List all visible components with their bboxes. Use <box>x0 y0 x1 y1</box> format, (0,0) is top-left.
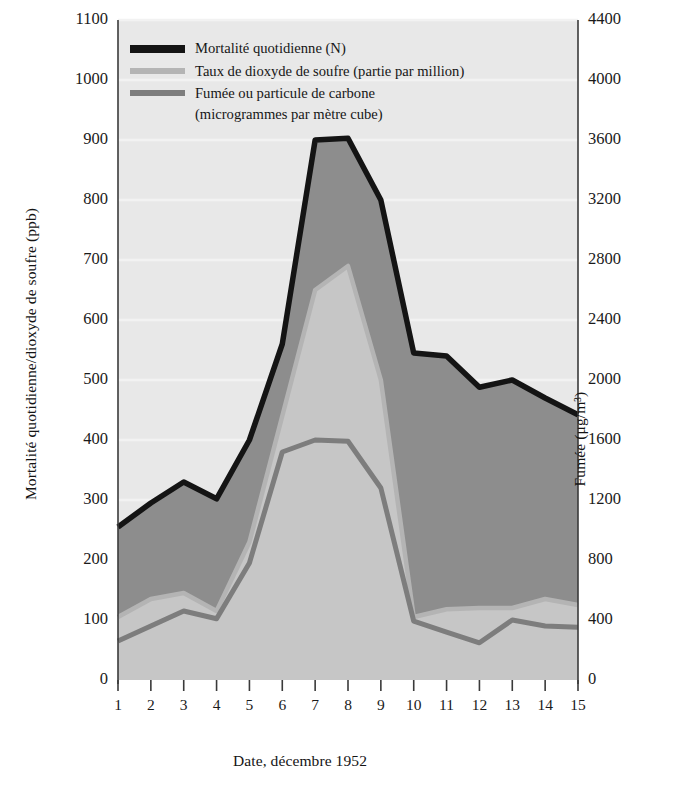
legend-swatch-icon <box>130 68 185 74</box>
y-tick-right: 4400 <box>588 9 646 29</box>
x-tick: 13 <box>499 696 525 714</box>
legend-label-block: Mortalité quotidienne (N) <box>195 38 346 59</box>
y-tick-left: 900 <box>50 129 108 149</box>
x-tick: 10 <box>401 696 427 714</box>
y-tick-left: 1000 <box>50 69 108 89</box>
air-pollution-chart: Mortalité quotidienne/dioxyde de soufre … <box>0 0 689 798</box>
x-tick: 11 <box>434 696 460 714</box>
y-tick-right: 2800 <box>588 249 646 269</box>
y-tick-right: 3200 <box>588 189 646 209</box>
y-tick-left: 400 <box>50 429 108 449</box>
x-tick: 8 <box>335 696 361 714</box>
y-tick-left: 800 <box>50 189 108 209</box>
legend-label-line2: (microgrammes par mètre cube) <box>195 104 383 125</box>
y-tick-right: 2000 <box>588 369 646 389</box>
y-tick-right: 1600 <box>588 429 646 449</box>
legend-label: Taux de dioxyde de soufre (partie par mi… <box>195 61 464 82</box>
legend-label-block: Fumée ou particule de carbone(microgramm… <box>195 83 383 124</box>
y-tick-left: 0 <box>50 669 108 689</box>
x-tick: 5 <box>236 696 262 714</box>
legend-swatch-icon <box>130 45 185 53</box>
x-tick: 2 <box>138 696 164 714</box>
y-tick-left: 200 <box>50 549 108 569</box>
legend-item: Taux de dioxyde de soufre (partie par mi… <box>130 61 464 82</box>
legend-swatch-icon <box>130 90 185 96</box>
y-tick-right: 400 <box>588 609 646 629</box>
y-tick-right: 0 <box>588 669 646 689</box>
y-tick-left: 300 <box>50 489 108 509</box>
x-tick: 14 <box>532 696 558 714</box>
x-tick: 1 <box>105 696 131 714</box>
y-tick-right: 4000 <box>588 69 646 89</box>
x-tick: 12 <box>466 696 492 714</box>
legend-label-block: Taux de dioxyde de soufre (partie par mi… <box>195 61 464 82</box>
y-axis-right-title: Fumée (μg/m³) <box>571 329 589 549</box>
y-tick-right: 2400 <box>588 309 646 329</box>
y-tick-right: 1200 <box>588 489 646 509</box>
y-tick-left: 100 <box>50 609 108 629</box>
legend-item: Fumée ou particule de carbone(microgramm… <box>130 83 464 124</box>
x-tick: 15 <box>565 696 591 714</box>
x-tick: 7 <box>302 696 328 714</box>
y-tick-left: 1100 <box>50 9 108 29</box>
y-tick-left: 700 <box>50 249 108 269</box>
chart-legend: Mortalité quotidienne (N)Taux de dioxyde… <box>130 38 464 127</box>
x-axis-title: Date, décembre 1952 <box>0 752 600 770</box>
y-tick-right: 3600 <box>588 129 646 149</box>
y-axis-left-title: Mortalité quotidienne/dioxyde de soufre … <box>22 94 40 614</box>
y-tick-left: 600 <box>50 309 108 329</box>
x-tick: 3 <box>171 696 197 714</box>
y-tick-right: 800 <box>588 549 646 569</box>
x-tick: 9 <box>368 696 394 714</box>
legend-item: Mortalité quotidienne (N) <box>130 38 464 59</box>
x-tick: 6 <box>269 696 295 714</box>
legend-label: Mortalité quotidienne (N) <box>195 38 346 59</box>
x-tick: 4 <box>204 696 230 714</box>
y-tick-left: 500 <box>50 369 108 389</box>
legend-label: Fumée ou particule de carbone <box>195 83 383 104</box>
